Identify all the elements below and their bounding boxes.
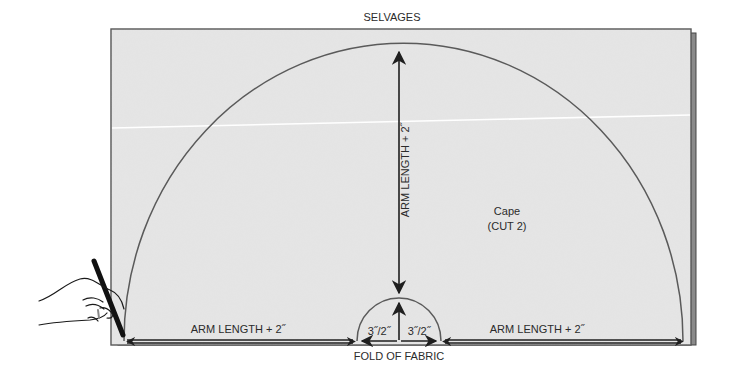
neck-right-measure-label: 3˝/2˝ [408, 325, 432, 337]
selvages-label: SELVAGES [363, 11, 420, 23]
piece-cut-label: (CUT 2) [488, 220, 527, 232]
left-base-measure-label: ARM LENGTH + 2˝ [191, 323, 287, 335]
piece-name-label: Cape [494, 205, 520, 217]
fold-of-fabric-label: FOLD OF FABRIC [354, 350, 445, 362]
vertical-measure-label: ARM LENGTH + 2˝ [399, 121, 411, 217]
neck-left-measure-label: 3˝/2˝ [368, 325, 392, 337]
cape-pattern-diagram: SELVAGES FOLD OF FABRIC ARM LENGTH + 2˝ … [0, 0, 739, 372]
right-base-measure-label: ARM LENGTH + 2˝ [490, 323, 586, 335]
